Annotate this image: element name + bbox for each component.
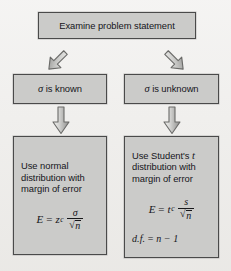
arrow-down-left-icon <box>51 106 71 135</box>
arrow-down-right-diagonal-icon <box>160 46 190 76</box>
formula-fraction: s √ n <box>178 197 194 220</box>
radicand: n <box>186 210 193 221</box>
description-line-2: distribution with <box>132 161 218 173</box>
t-symbol: t <box>192 150 195 161</box>
description-line-3: margin of error <box>132 173 218 185</box>
formula-margin-of-error-t: E = tc s √ n <box>125 197 218 220</box>
node-label-text: is known <box>43 83 82 94</box>
description-line-2: distribution with <box>21 172 106 184</box>
df-label: d.f. <box>132 233 145 244</box>
node-description: Use Student's t distribution with margin… <box>125 150 218 185</box>
square-root: √ n <box>69 220 81 231</box>
description-line-1: Use Student's t <box>132 150 218 162</box>
formula-equals: = <box>45 213 53 225</box>
formula-coefficient-subscript: c <box>171 204 174 213</box>
fraction-numerator: σ <box>71 208 80 219</box>
formula-margin-of-error-z: E = zc σ √ n <box>14 208 106 231</box>
node-examine-problem-statement: Examine problem statement <box>38 12 196 39</box>
description-line-1-prefix: Use Student's <box>132 150 192 161</box>
df-equals: = <box>145 233 156 244</box>
df-expression: n − 1 <box>156 233 178 244</box>
formula-equals: = <box>158 203 166 215</box>
formula-fraction: σ √ n <box>67 208 83 231</box>
fraction-denominator: √ n <box>178 208 194 221</box>
radicand: n <box>75 220 82 231</box>
node-sigma-is-known: σ is known <box>13 74 107 104</box>
formula-coefficient: z <box>55 213 59 225</box>
node-description: Use normal distribution with margin of e… <box>14 160 106 195</box>
arrow-down-left-diagonal-icon <box>42 46 72 76</box>
node-use-student-t-distribution: Use Student's t distribution with margin… <box>124 136 219 258</box>
degrees-of-freedom: d.f. = n − 1 <box>125 233 218 244</box>
node-use-normal-distribution: Use normal distribution with margin of e… <box>13 136 107 255</box>
node-label: σ is unknown <box>125 83 218 95</box>
description-line-3: margin of error <box>21 183 106 195</box>
fraction-denominator: √ n <box>67 218 83 231</box>
fraction-numerator: s <box>182 197 190 208</box>
node-sigma-is-unknown: σ is unknown <box>124 74 219 104</box>
formula-lhs: E <box>37 213 44 225</box>
node-label: σ is known <box>14 83 106 95</box>
arrow-down-right-icon <box>162 106 182 135</box>
formula-lhs: E <box>149 203 156 215</box>
square-root: √ n <box>180 209 192 220</box>
formula-coefficient-subscript: c <box>60 215 63 224</box>
node-label-text: is unknown <box>150 83 199 94</box>
node-label: Examine problem statement <box>39 20 195 32</box>
description-line-1: Use normal <box>21 160 106 172</box>
